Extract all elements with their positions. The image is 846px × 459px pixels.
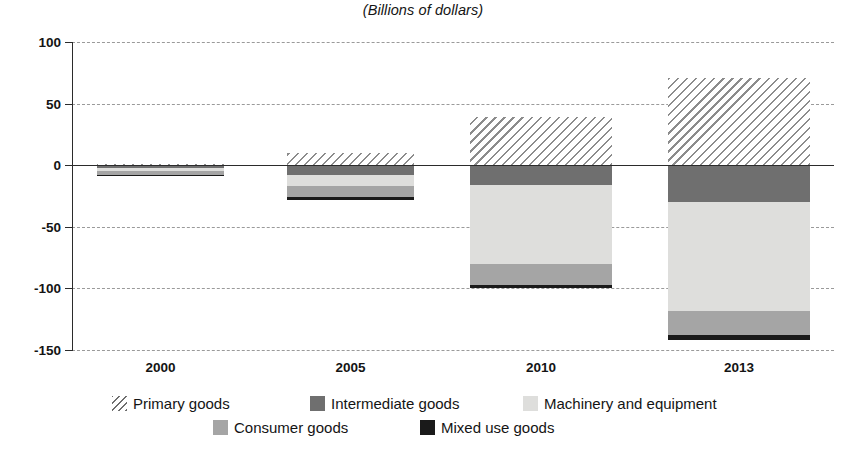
zero-axis-line (72, 165, 834, 166)
bar-segment-machinery (470, 185, 612, 264)
bar-group-2013[interactable]: 2013 (668, 42, 810, 350)
ytick-label-100: 100 (38, 35, 61, 50)
legend-item-machinery-and-equipment[interactable]: Machinery and equipment (523, 396, 717, 411)
bar-segment-consumer (287, 186, 414, 197)
legend-label-primary: Primary goods (133, 396, 230, 411)
legend-item-primary-goods[interactable]: Primary goods (112, 396, 310, 411)
ytick-label-minus150: -150 (34, 343, 61, 358)
bar-segment-mixed (470, 285, 612, 289)
legend-label-intermediate: Intermediate goods (331, 396, 459, 411)
legend-label-machinery: Machinery and equipment (544, 396, 717, 411)
xtick-label-2013: 2013 (724, 360, 754, 375)
legend-swatch-primary-icon (112, 396, 127, 411)
bar-segment-primary (470, 117, 612, 165)
ytick-label-50: 50 (46, 96, 61, 111)
xtick-label-2005: 2005 (335, 360, 365, 375)
y-axis (72, 42, 73, 350)
plot-area: 100 50 0 -50 -100 -150 2000 (72, 42, 834, 350)
chart-container: (Billions of dollars) 100 50 0 -50 -100 … (0, 0, 846, 459)
gridline-minus150 (72, 350, 834, 351)
bar-segment-mixed (668, 335, 810, 340)
xtick-label-2000: 2000 (145, 360, 175, 375)
legend-swatch-mixed-icon (420, 420, 435, 435)
bar-segment-machinery (668, 202, 810, 310)
legend-swatch-consumer-icon (213, 420, 228, 435)
legend-item-intermediate-goods[interactable]: Intermediate goods (310, 396, 523, 411)
ytick-minus150 (65, 350, 73, 351)
legend-label-consumer: Consumer goods (234, 420, 348, 435)
bar-segment-mixed (97, 175, 224, 176)
ytick-label-minus50: -50 (41, 219, 61, 234)
bar-group-2000[interactable]: 2000 (97, 42, 224, 350)
bar-segment-consumer (470, 264, 612, 285)
bar-segment-intermediate (668, 165, 810, 202)
bar-segment-machinery (287, 175, 414, 186)
bar-group-2005[interactable]: 2005 (287, 42, 414, 350)
legend-row-2: Consumer goods Mixed use goods (0, 420, 846, 435)
legend-row-1: Primary goods Intermediate goods Machine… (0, 396, 846, 411)
xtick-label-2010: 2010 (526, 360, 556, 375)
bar-segment-primary (668, 78, 810, 166)
ytick-label-minus100: -100 (34, 281, 61, 296)
legend-label-mixed: Mixed use goods (441, 420, 554, 435)
bar-segment-primary (287, 153, 414, 165)
bar-segment-consumer (668, 311, 810, 336)
legend-swatch-intermediate-icon (310, 396, 325, 411)
bar-segment-mixed (287, 197, 414, 200)
ytick-label-0: 0 (53, 158, 61, 173)
chart-legend: Primary goods Intermediate goods Machine… (0, 396, 846, 435)
legend-swatch-machinery-icon (523, 396, 538, 411)
legend-item-consumer-goods[interactable]: Consumer goods (213, 420, 420, 435)
bar-segment-intermediate (287, 165, 414, 175)
bar-group-2010[interactable]: 2010 (470, 42, 612, 350)
legend-item-mixed-use-goods[interactable]: Mixed use goods (420, 420, 554, 435)
bar-segment-intermediate (470, 165, 612, 185)
chart-title: (Billions of dollars) (0, 2, 846, 18)
